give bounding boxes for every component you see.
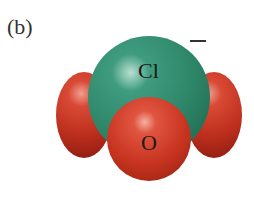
panel-label: (b) [7,14,33,40]
oxygen-label: O [141,130,157,156]
chlorine-label: Cl [138,58,159,84]
negative-charge-sign [190,40,206,42]
